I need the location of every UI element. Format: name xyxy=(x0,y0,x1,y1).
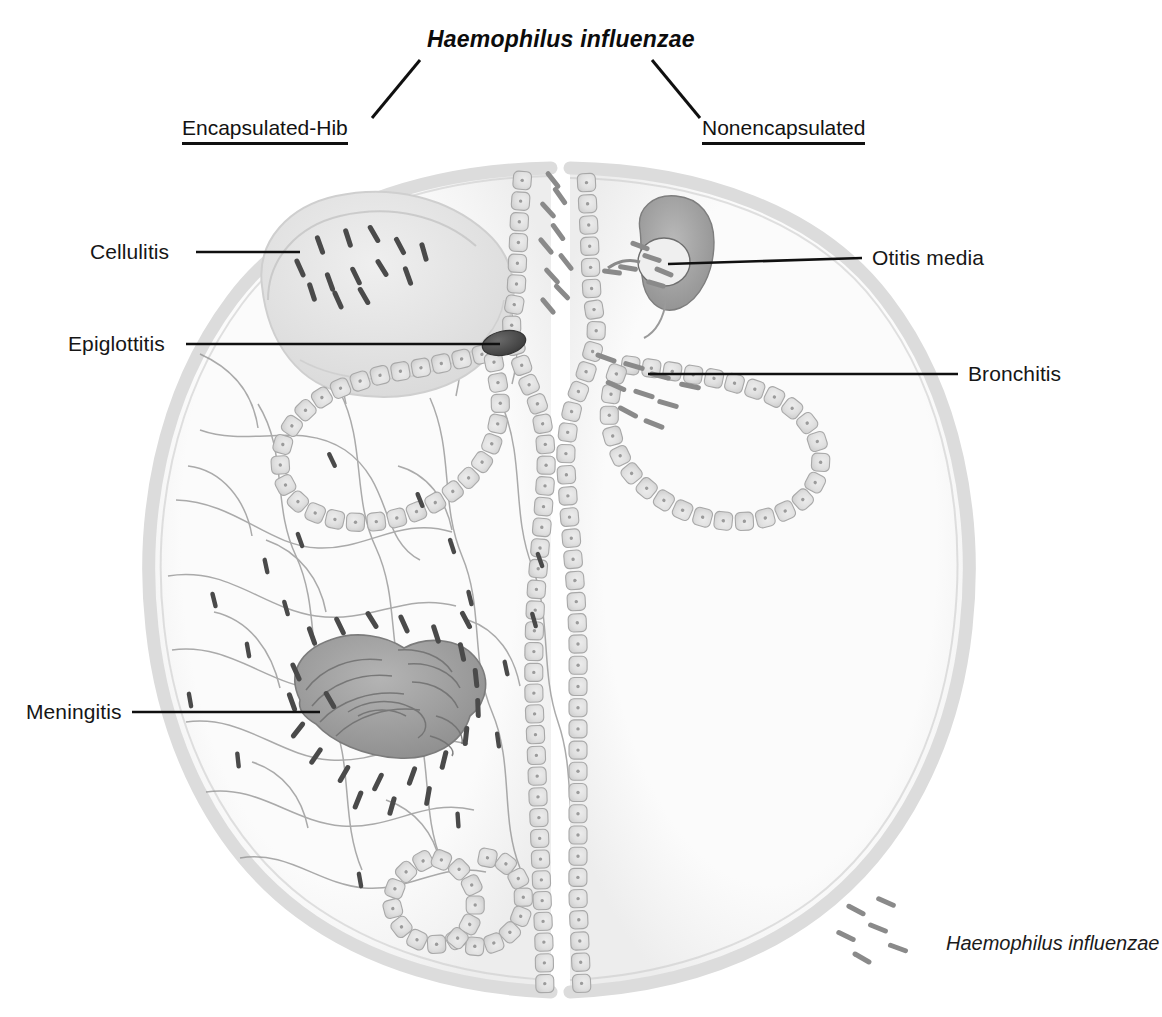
label-bronchitis: Bronchitis xyxy=(968,362,1061,386)
branch-underline-right xyxy=(702,142,865,145)
branch-label-encapsulated-text: Encapsulated-Hib xyxy=(182,116,348,139)
cellulitis-swelling xyxy=(261,192,513,397)
branch-connectors xyxy=(372,60,700,118)
label-meningitis: Meningitis xyxy=(26,700,122,724)
connector-right xyxy=(652,60,700,118)
illustration-canvas xyxy=(0,0,1162,1017)
branch-label-encapsulated: Encapsulated-Hib xyxy=(182,116,348,148)
label-epiglottitis: Epiglottitis xyxy=(68,332,165,356)
branch-label-nonencapsulated-text: Nonencapsulated xyxy=(702,116,865,139)
page-title: Haemophilus influenzae xyxy=(427,26,695,53)
branch-underline-left xyxy=(182,142,348,145)
connector-left xyxy=(372,60,420,118)
head-outline-right xyxy=(570,168,969,992)
figure-haemophilus-influenzae-disease-sites: Haemophilus influenzae Encapsulated-Hib … xyxy=(0,0,1162,1017)
branch-label-nonencapsulated: Nonencapsulated xyxy=(702,116,865,148)
label-cellulitis: Cellulitis xyxy=(90,240,169,264)
legend-label: Haemophilus influenzae xyxy=(946,932,1159,955)
label-otitis-media: Otitis media xyxy=(872,246,984,270)
